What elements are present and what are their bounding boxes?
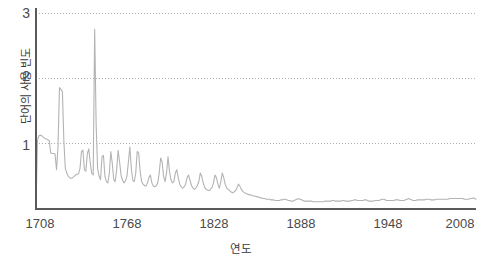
x-tick-label: 2008 <box>446 216 475 231</box>
x-tick-label: 1768 <box>113 216 142 231</box>
axis-spines <box>36 8 476 209</box>
data-series-line <box>36 29 476 209</box>
x-tick-label: 1948 <box>374 216 403 231</box>
x-tick-label: 1828 <box>200 216 229 231</box>
x-tick-label: 1888 <box>287 216 316 231</box>
x-tick-label: 1708 <box>26 216 55 231</box>
plot-area <box>0 0 482 267</box>
x-axis-title: 연도 <box>0 240 482 256</box>
line-chart: 단어의 사용 빈도 3 2 1 1708 1768 1828 1888 1948… <box>0 0 482 267</box>
